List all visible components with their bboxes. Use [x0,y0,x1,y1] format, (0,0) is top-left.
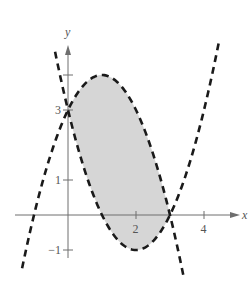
x-tick-label: 2 [133,222,139,236]
x-axis-label: x [241,208,248,222]
y-ticks: −113 [48,75,73,257]
y-tick-label: 3 [55,103,61,117]
graph-figure: 24 −113 x y [0,0,250,293]
x-tick-label: 4 [201,222,207,236]
y-tick-label: 1 [55,173,61,187]
y-axis-arrow-icon [65,45,71,55]
y-axis-label: y [64,25,71,39]
x-axis-arrow-icon [230,212,240,218]
y-tick-label: −1 [48,243,61,257]
